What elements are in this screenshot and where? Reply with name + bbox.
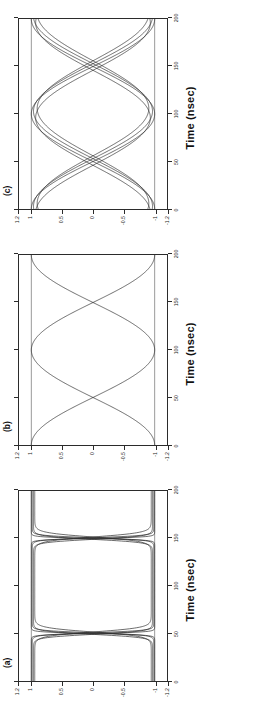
x-axis-tick-label: 150	[174, 534, 179, 543]
x-axis-tick	[168, 65, 172, 66]
y-axis-tick	[93, 446, 94, 450]
x-axis-tick-top	[14, 65, 18, 66]
x-axis-tick-top	[14, 301, 18, 302]
eye-diagram-figure: (c)050100150200-1.2-1-0.500.511.2Time (n…	[0, 0, 260, 709]
plot-area	[18, 18, 168, 210]
y-axis-tick	[62, 210, 63, 214]
y-axis-tick-label: 0.5	[59, 452, 64, 472]
y-axis-tick	[62, 446, 63, 450]
y-axis-tick	[156, 210, 157, 214]
y-axis-tick	[18, 446, 19, 450]
x-axis-tick-label: 50	[174, 395, 179, 401]
y-axis-tick-label: 0.5	[59, 688, 64, 708]
y-axis-tick-label: -1.2	[165, 452, 170, 472]
trace-canvas	[19, 255, 167, 445]
x-axis-tick-top	[14, 633, 18, 634]
y-axis-tick	[168, 682, 169, 686]
x-axis-tick-label: 0	[174, 445, 179, 448]
x-axis-tick	[168, 349, 172, 350]
y-axis-tick	[156, 682, 157, 686]
plot-area	[18, 490, 168, 682]
y-axis-tick	[62, 682, 63, 686]
y-axis-tick	[124, 446, 125, 450]
panel-rotation-container: (b)050100150200-1.2-1-0.500.511.2Time (n…	[0, 236, 260, 472]
y-axis-tick-label: 1.2	[15, 688, 20, 708]
x-axis-tick-label: 200	[174, 14, 179, 23]
plot-panel-c: (c)050100150200-1.2-1-0.500.511.2Time (n…	[0, 0, 260, 236]
reference-lines	[31, 19, 154, 209]
y-axis-tick-label: 0	[90, 688, 95, 708]
x-axis-tick-label: 200	[174, 486, 179, 495]
plot-panel-a: (a)050100150200-1.2-1-0.500.511.2Time (n…	[0, 472, 260, 708]
x-axis-tick-label: 50	[174, 631, 179, 637]
x-axis-tick-top	[14, 585, 18, 586]
y-axis-tick-label: -0.5	[122, 216, 127, 236]
x-axis-tick-top	[14, 489, 18, 490]
x-axis-tick-top	[14, 17, 18, 18]
y-axis-tick	[31, 682, 32, 686]
y-axis-tick-label: 1	[28, 688, 33, 708]
x-axis-tick	[168, 585, 172, 586]
y-axis-tick	[156, 446, 157, 450]
x-axis-tick	[168, 397, 172, 398]
trace-canvas	[19, 19, 167, 209]
trace-canvas	[19, 491, 167, 681]
x-axis-title: Time (nsec)	[184, 86, 196, 149]
y-axis-tick	[124, 210, 125, 214]
x-axis-title: Time (nsec)	[184, 558, 196, 621]
y-axis-tick-label: -1	[153, 452, 158, 472]
y-axis-tick-label: -1.2	[165, 688, 170, 708]
y-axis-tick-label: 0.5	[59, 216, 64, 236]
reference-lines	[31, 491, 154, 681]
panel-rotation-container: (a)050100150200-1.2-1-0.500.511.2Time (n…	[0, 472, 260, 708]
plot-area	[18, 254, 168, 446]
x-axis-tick-label: 100	[174, 582, 179, 591]
x-axis-tick-label: 100	[174, 110, 179, 119]
x-axis-tick-label: 100	[174, 346, 179, 355]
x-axis-tick	[168, 537, 172, 538]
x-axis-tick	[168, 253, 172, 254]
y-axis-tick	[18, 682, 19, 686]
y-axis-tick	[93, 682, 94, 686]
y-axis-tick-label: -1.2	[165, 216, 170, 236]
x-axis-tick	[168, 17, 172, 18]
x-axis-title: Time (nsec)	[184, 322, 196, 385]
x-axis-tick	[168, 301, 172, 302]
x-axis-tick	[168, 633, 172, 634]
x-axis-tick	[168, 113, 172, 114]
x-axis-tick-top	[14, 349, 18, 350]
y-axis-tick	[124, 682, 125, 686]
x-axis-tick-top	[14, 537, 18, 538]
y-axis-tick	[168, 446, 169, 450]
y-axis-tick-label: -0.5	[122, 688, 127, 708]
y-axis-tick-label: 0	[90, 452, 95, 472]
x-axis-tick-label: 0	[174, 209, 179, 212]
y-axis-tick-label: -0.5	[122, 452, 127, 472]
y-axis-tick	[168, 210, 169, 214]
y-axis-tick-label: -1	[153, 216, 158, 236]
panel-label: (c)	[2, 186, 12, 196]
panel-rotation-container: (c)050100150200-1.2-1-0.500.511.2Time (n…	[0, 0, 260, 236]
y-axis-tick-label: -1	[153, 688, 158, 708]
x-axis-tick-top	[14, 253, 18, 254]
y-axis-tick	[93, 210, 94, 214]
x-axis-tick-label: 150	[174, 298, 179, 307]
y-axis-tick	[18, 210, 19, 214]
x-axis-tick-label: 200	[174, 250, 179, 259]
y-axis-tick	[31, 210, 32, 214]
x-axis-tick	[168, 161, 172, 162]
y-axis-tick-label: 1	[28, 452, 33, 472]
y-axis-tick-label: 1	[28, 216, 33, 236]
x-axis-tick-label: 50	[174, 159, 179, 165]
x-axis-tick-top	[14, 113, 18, 114]
y-axis-tick-label: 1.2	[15, 452, 20, 472]
plot-panel-b: (b)050100150200-1.2-1-0.500.511.2Time (n…	[0, 236, 260, 472]
panel-label: (b)	[2, 421, 12, 432]
x-axis-tick-label: 150	[174, 62, 179, 71]
x-axis-tick-top	[14, 161, 18, 162]
x-axis-tick	[168, 489, 172, 490]
y-axis-tick-label: 0	[90, 216, 95, 236]
y-axis-tick-label: 1.2	[15, 216, 20, 236]
reference-lines	[31, 255, 154, 445]
panel-label: (a)	[2, 658, 12, 668]
